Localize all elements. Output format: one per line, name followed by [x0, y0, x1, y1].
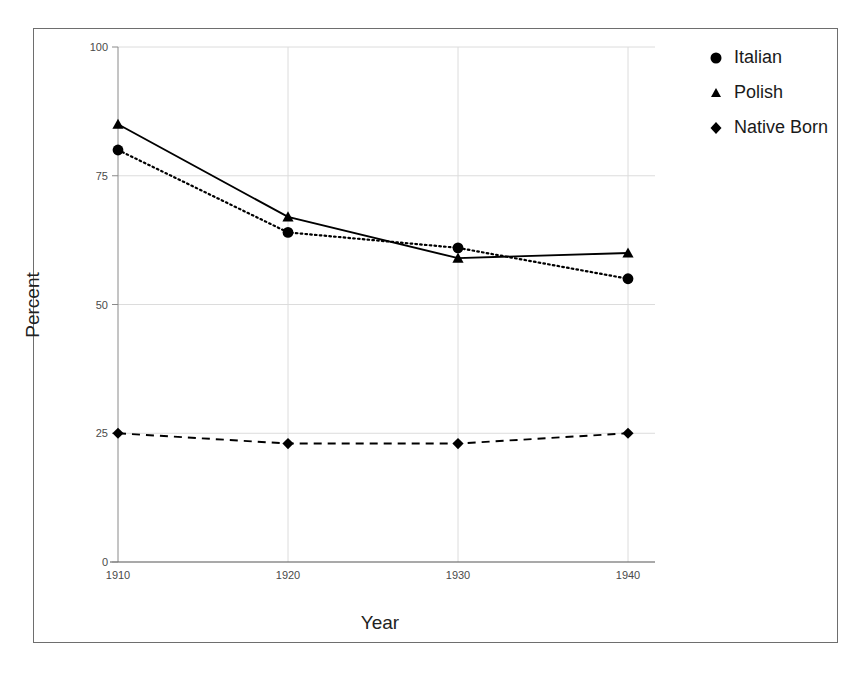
x-tick-label: 1910: [106, 569, 130, 581]
y-tick-label: 50: [58, 299, 108, 311]
chart-legend: Italian Polish Native Born: [706, 40, 856, 145]
y-tick-label: 0: [58, 556, 108, 568]
y-tick-label: 25: [58, 427, 108, 439]
legend-item-italian: Italian: [706, 40, 856, 75]
diamond-marker-icon: [706, 118, 726, 138]
y-axis-title-wrapper: Percent: [18, 180, 48, 430]
y-tick-label: 100: [58, 41, 108, 53]
x-axis-title: Year: [0, 612, 760, 634]
y-tick-label: 75: [58, 170, 108, 182]
y-axis-title: Percent: [22, 180, 44, 430]
circle-marker-icon: [706, 48, 726, 68]
triangle-marker-icon: [706, 83, 726, 103]
legend-item-polish: Polish: [706, 75, 856, 110]
legend-item-native-born: Native Born: [706, 110, 856, 145]
legend-label-italian: Italian: [734, 47, 782, 68]
x-tick-label: 1930: [446, 569, 470, 581]
legend-label-polish: Polish: [734, 82, 783, 103]
chart-figure: 1007550250 1910192019301940 Year Percent…: [0, 0, 867, 677]
x-tick-label: 1920: [276, 569, 300, 581]
legend-label-native-born: Native Born: [734, 117, 828, 138]
x-tick-label: 1940: [616, 569, 640, 581]
